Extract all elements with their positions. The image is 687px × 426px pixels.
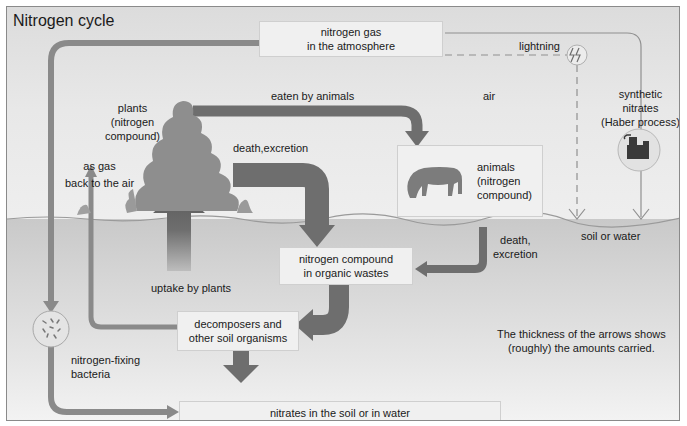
organic-wastes-box: nitrogen compound in organic wastes [279,247,413,285]
as-gas-label: as gas back to the air [65,159,134,190]
uptake-by-plants-label: uptake by plants [151,281,231,295]
horse-icon [404,160,470,204]
animals-line-1: animals [477,160,532,174]
animals-box: animals (nitrogen compound) [397,145,543,217]
plants-line-1: plants [105,101,160,115]
animals-line-3: compound) [477,188,532,202]
atmosphere-line-1: nitrogen gas [307,25,395,39]
atmosphere-box: nitrogen gas in the atmosphere [259,21,443,57]
eaten-by-animals-arrow [193,111,429,147]
animals-line-2: (nitrogen [477,174,532,188]
nitrogen-fixing-line-1: nitrogen-fixing [71,353,140,367]
organic-wastes-line-2: in organic wastes [299,266,393,280]
atmosphere-line-2: in the atmosphere [307,39,395,53]
decomposers-line-2: other soil organisms [189,331,287,345]
air-label: air [483,89,495,103]
arrow-thickness-note: The thickness of the arrows shows (rough… [497,327,666,355]
animal-death-excretion-arrow [415,227,483,277]
synthetic-line-1: synthetic [601,87,680,101]
decomposers-line-1: decomposers and [189,317,287,331]
animal-death-line-1: death, [493,233,538,247]
organic-wastes-line-1: nitrogen compound [299,252,393,266]
as-gas-line-1: as gas [65,159,134,173]
eaten-by-animals-label: eaten by animals [271,89,354,103]
animal-death-line-2: excretion [493,247,538,261]
plant-bush-icon [77,101,253,215]
bacteria-icon [33,311,69,347]
decomposers-box: decomposers and other soil organisms [177,311,299,351]
diagram-title: Nitrogen cycle [13,11,114,31]
as-gas-line-2: back to the air [65,176,134,190]
plant-death-excretion-label: death,excretion [233,141,308,155]
lightning-label: lightning [519,39,560,53]
factory-icon [618,129,660,171]
nitrates-text: nitrates in the soil or in water [270,406,410,420]
nitrogen-fixing-line-2: bacteria [71,367,140,381]
plants-line-3: compound) [105,129,160,143]
synthetic-line-2: nitrates [601,101,680,115]
soil-or-water-label: soil or water [581,229,640,243]
decomposers-to-nitrates-arrow [223,347,259,383]
animal-death-excretion-label: death, excretion [493,233,538,261]
lightning-bolt-icon [567,45,587,65]
note-line-2: (roughly) the amounts carried. [497,341,666,355]
synthetic-line-3: (Haber process) [601,115,680,129]
wastes-to-decomposers-arrow [295,277,339,341]
diagram-frame: Nitrogen cycle nitrogen gas in the atmos… [6,6,680,421]
nitrogen-fixing-label: nitrogen-fixing bacteria [71,353,140,381]
plants-label: plants (nitrogen compound) [105,101,160,143]
synthetic-nitrates-label: synthetic nitrates (Haber process) [601,87,680,129]
nitrates-box: nitrates in the soil or in water [179,401,501,421]
plants-line-2: (nitrogen [105,115,160,129]
note-line-1: The thickness of the arrows shows [497,327,666,341]
